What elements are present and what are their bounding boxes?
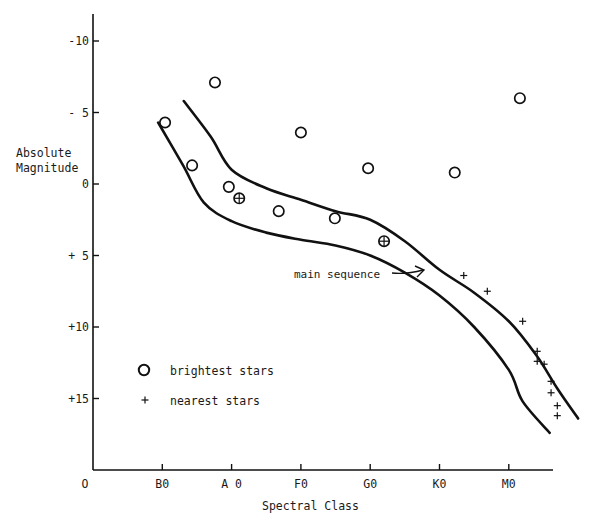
- brightest-star-point: [330, 213, 340, 223]
- legend-circle-icon: [139, 365, 149, 375]
- brightest-star-point: [224, 182, 234, 192]
- main-sequence-label: main sequence: [294, 268, 380, 281]
- brightest-star-point: [515, 93, 525, 103]
- y-tick-label: 0: [49, 177, 89, 191]
- nearest-star-point: [554, 402, 561, 409]
- y-axis-title: Absolute Magnitude: [16, 146, 78, 176]
- brightest-star-point: [450, 167, 460, 177]
- x-tick-label: A 0: [212, 477, 252, 491]
- legend-label-nearest: nearest stars: [170, 394, 260, 408]
- x-tick-label: O: [65, 477, 105, 491]
- brightest-star-point: [160, 117, 170, 127]
- y-tick-label: - 5: [49, 106, 89, 120]
- y-tick-label: +10: [49, 320, 89, 334]
- main-sequence-band: [158, 101, 578, 433]
- y-tick-label: + 5: [49, 249, 89, 263]
- brightest-star-point: [210, 77, 220, 87]
- brightest-star-point: [296, 127, 306, 137]
- y-tick-label: -10: [49, 34, 89, 48]
- arrow-shaft: [392, 270, 423, 273]
- x-tick-label: B0: [142, 477, 182, 491]
- y-axis-title-line2: Magnitude: [16, 161, 78, 176]
- legend-plus-icon: [142, 397, 149, 404]
- brightest-star-point: [187, 160, 197, 170]
- nearest-star-point: [519, 318, 526, 325]
- legend-markers: [139, 365, 149, 404]
- x-axis-title: Spectral Class: [262, 499, 359, 513]
- x-tick-label: F0: [281, 477, 321, 491]
- bright-and-near-star-point: [234, 193, 244, 203]
- legend-label-brightest: brightest stars: [170, 364, 274, 378]
- nearest-star-point: [460, 272, 467, 279]
- brightest-star-point: [274, 206, 284, 216]
- brightest-star-point: [363, 163, 373, 173]
- nearest-star-point: [548, 389, 555, 396]
- nearest-star-point: [554, 412, 561, 419]
- y-axis-title-line1: Absolute: [16, 146, 78, 161]
- x-tick-label: M0: [489, 477, 529, 491]
- y-tick-label: +15: [49, 392, 89, 406]
- x-tick-label: K0: [420, 477, 460, 491]
- bright-and-near-star-point: [379, 236, 389, 246]
- nearest-star-point: [484, 288, 491, 295]
- x-tick-label: G0: [350, 477, 390, 491]
